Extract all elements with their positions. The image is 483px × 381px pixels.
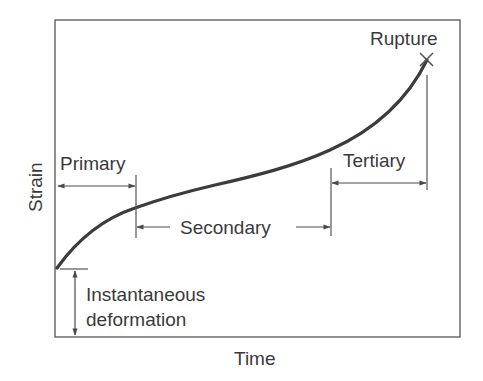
secondary-label: Secondary: [180, 217, 271, 238]
tertiary-label: Tertiary: [343, 150, 406, 171]
creep-curve-diagram: Primary Secondary Tertiary Rupture Insta…: [0, 0, 483, 381]
rupture-label: Rupture: [370, 28, 438, 49]
y-axis-label: Strain: [25, 162, 46, 212]
instantaneous-label-line1: Instantaneous: [86, 284, 205, 305]
x-axis-label: Time: [234, 348, 276, 369]
instantaneous-label-line2: deformation: [86, 309, 186, 330]
primary-label: Primary: [60, 153, 126, 174]
